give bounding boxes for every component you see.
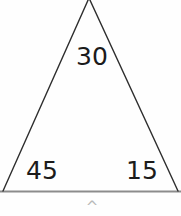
bottom-left-angle-label: 45 (26, 158, 58, 183)
bottom-right-angle-label: 15 (126, 158, 158, 183)
caret-mark-icon: ^ (84, 200, 100, 214)
apex-angle-label: 30 (76, 44, 108, 69)
diagram-canvas: 30 45 15 ^ (0, 0, 181, 216)
